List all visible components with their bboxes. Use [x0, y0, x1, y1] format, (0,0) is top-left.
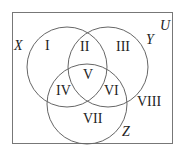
region-vii: VII [83, 111, 103, 126]
region-vi: VI [104, 83, 119, 98]
venn-diagram: U X Y Z I II III V IV VI VII VIII [0, 0, 183, 151]
region-i: I [45, 38, 50, 53]
region-v: V [83, 67, 93, 82]
region-ii: II [80, 39, 90, 54]
region-iv: IV [56, 83, 71, 98]
set-x-label: X [13, 38, 23, 53]
region-iii: III [116, 39, 130, 54]
region-viii: VIII [137, 94, 161, 109]
set-z-label: Z [122, 124, 130, 139]
universe-label: U [160, 18, 171, 33]
set-y-label: Y [146, 32, 156, 47]
